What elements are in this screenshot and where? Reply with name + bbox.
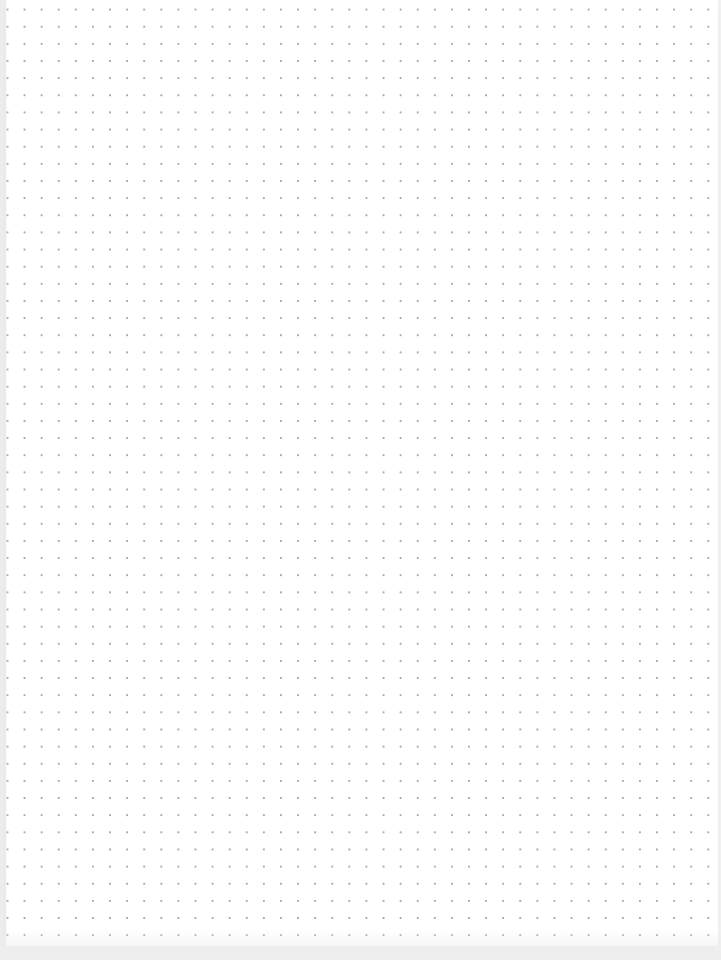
left-edge-shadow — [0, 0, 8, 960]
dot-grid-page — [6, 0, 718, 946]
bottom-edge-shadow — [0, 930, 721, 960]
